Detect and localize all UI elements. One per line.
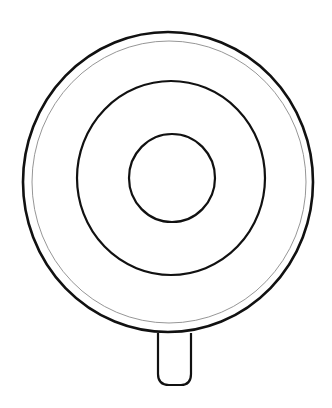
outer-disc xyxy=(23,32,313,332)
stick xyxy=(158,333,191,385)
lollipop-svg xyxy=(0,0,332,408)
lollipop-drawing: lollipop line drawing (top view) xyxy=(0,0,332,408)
